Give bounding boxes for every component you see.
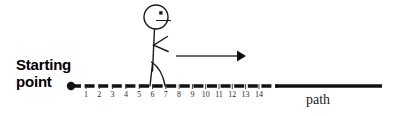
tick-label: 4: [124, 90, 128, 99]
tick-label: 1: [84, 90, 88, 99]
tick-label: 8: [177, 90, 181, 99]
tick-label: 7: [164, 90, 168, 99]
tick-label: 9: [190, 90, 194, 99]
stick-figure: [144, 5, 171, 86]
tick-label: 6: [151, 90, 155, 99]
diagram-canvas: Starting point path 1234567891011121314: [0, 0, 396, 116]
tick-label: 14: [255, 90, 263, 99]
motion-arrow-head: [237, 51, 246, 62]
legs-walking: [152, 62, 166, 86]
tick-label: 3: [111, 90, 115, 99]
tick-label: 12: [228, 90, 236, 99]
motion-arrow: [176, 51, 246, 62]
path-label: path: [306, 92, 330, 108]
head-circle: [144, 5, 168, 29]
starting-point-label-line1: Starting: [16, 56, 71, 73]
tick-label: 5: [137, 90, 141, 99]
legs-walking: [150, 63, 153, 87]
path-line-group: [67, 82, 382, 90]
tick-label: 10: [202, 90, 210, 99]
starting-point-label: Starting point: [16, 56, 71, 90]
eye-dot: [159, 11, 162, 14]
tick-label: 13: [242, 90, 250, 99]
tick-label: 11: [215, 90, 223, 99]
tick-label: 2: [97, 90, 101, 99]
arm-chevron: [154, 37, 169, 52]
starting-point-label-line2: point: [16, 73, 71, 90]
